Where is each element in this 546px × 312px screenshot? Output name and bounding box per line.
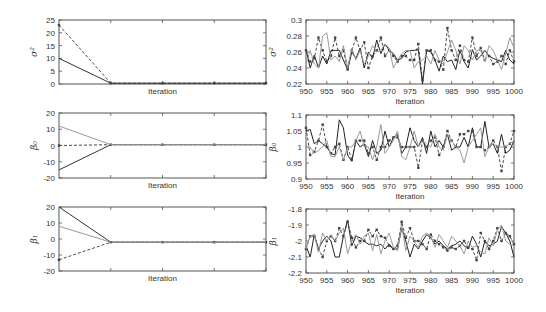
y-tick-label: 0 bbox=[51, 80, 56, 89]
y-tick-label: -2 bbox=[295, 237, 303, 246]
y-tick-label: -10 bbox=[43, 158, 55, 167]
series-chain-gray bbox=[59, 126, 266, 145]
y-axis-label: β₁ bbox=[268, 237, 278, 247]
x-tick-label: 1000 bbox=[505, 276, 523, 285]
x-tick-label: 970 bbox=[383, 182, 397, 191]
point-marker bbox=[309, 60, 311, 62]
x-tick-label: 995 bbox=[487, 276, 501, 285]
point-marker bbox=[317, 139, 319, 141]
y-tick-label: 1.1 bbox=[291, 111, 303, 120]
x-tick-label: 985 bbox=[445, 87, 459, 96]
point-marker bbox=[371, 146, 373, 148]
point-marker bbox=[355, 36, 357, 38]
point-marker bbox=[359, 139, 361, 141]
x-tick-label: 980 bbox=[424, 87, 438, 96]
panel-beta0-burnin: -20-1001020Iterationβ₀ bbox=[29, 109, 267, 190]
x-tick-label: 990 bbox=[466, 182, 480, 191]
x-axis-label: Iteration bbox=[148, 274, 177, 283]
point-marker bbox=[367, 67, 369, 69]
point-marker bbox=[400, 146, 402, 148]
point-marker bbox=[475, 55, 477, 57]
series-chain-gray bbox=[306, 33, 514, 70]
x-tick-label: 975 bbox=[403, 276, 417, 285]
point-marker bbox=[334, 146, 336, 148]
point-marker bbox=[417, 167, 419, 169]
point-marker bbox=[334, 36, 336, 38]
y-tick-label: 15 bbox=[46, 42, 55, 51]
point-marker bbox=[442, 68, 444, 70]
point-marker bbox=[430, 139, 432, 141]
y-tick-label: 10 bbox=[46, 219, 55, 228]
x-tick-label: 985 bbox=[445, 182, 459, 191]
point-marker bbox=[355, 246, 357, 248]
series-chain-solid bbox=[306, 220, 514, 257]
x-tick-label: 995 bbox=[487, 182, 501, 191]
plot-frame bbox=[59, 207, 266, 271]
y-tick-label: 10 bbox=[46, 125, 55, 134]
point-marker bbox=[388, 139, 390, 141]
point-marker bbox=[417, 240, 419, 242]
point-marker bbox=[463, 59, 465, 61]
point-marker bbox=[467, 60, 469, 62]
y-tick-label: 0.95 bbox=[286, 159, 302, 168]
y-tick-label: 1 bbox=[298, 143, 303, 152]
x-tick-label: 995 bbox=[487, 87, 501, 96]
y-axis-label: σ² bbox=[268, 47, 278, 57]
y-tick-label: -1.9 bbox=[288, 221, 302, 230]
point-marker bbox=[392, 55, 394, 57]
point-marker bbox=[500, 170, 502, 172]
point-marker bbox=[463, 240, 465, 242]
point-marker bbox=[346, 68, 348, 70]
point-marker bbox=[413, 146, 415, 148]
x-tick-label: 965 bbox=[362, 182, 376, 191]
point-marker bbox=[488, 248, 490, 250]
x-tick-label: 970 bbox=[383, 276, 397, 285]
point-marker bbox=[450, 49, 452, 51]
x-tick-label: 960 bbox=[341, 182, 355, 191]
panel-sigma2-trace: 0.220.240.260.280.3950955960965970975980… bbox=[268, 16, 523, 106]
series-chain-solid bbox=[306, 40, 514, 84]
y-tick-label: 0.26 bbox=[286, 48, 302, 57]
point-marker bbox=[492, 63, 494, 65]
x-axis-label: Iteration bbox=[148, 181, 177, 190]
y-tick-label: 0 bbox=[51, 142, 56, 151]
point-marker bbox=[425, 248, 427, 250]
y-tick-label: -10 bbox=[43, 251, 55, 260]
x-axis-label: Iteration bbox=[396, 97, 425, 106]
x-tick-label: 950 bbox=[299, 276, 313, 285]
y-tick-label: 0.28 bbox=[286, 32, 302, 41]
point-marker bbox=[434, 59, 436, 61]
point-marker bbox=[110, 82, 112, 84]
x-axis-label: Iteration bbox=[396, 192, 425, 201]
point-marker bbox=[513, 130, 515, 132]
point-marker bbox=[58, 259, 60, 261]
point-marker bbox=[446, 27, 448, 29]
point-marker bbox=[58, 144, 60, 146]
panel-sigma2-burnin: 0510152025Iterationσ² bbox=[29, 16, 267, 96]
point-marker bbox=[363, 41, 365, 43]
y-axis-label: β₁ bbox=[29, 235, 39, 245]
point-marker bbox=[346, 221, 348, 223]
x-tick-label: 950 bbox=[299, 87, 313, 96]
x-tick-label: 970 bbox=[383, 87, 397, 96]
point-marker bbox=[58, 24, 60, 26]
point-marker bbox=[484, 240, 486, 242]
plot-frame bbox=[59, 20, 266, 84]
point-marker bbox=[384, 55, 386, 57]
point-marker bbox=[455, 59, 457, 61]
x-tick-label: 965 bbox=[362, 276, 376, 285]
point-marker bbox=[425, 146, 427, 148]
point-marker bbox=[405, 146, 407, 148]
x-tick-label: 1000 bbox=[505, 182, 523, 191]
point-marker bbox=[380, 146, 382, 148]
y-tick-label: 10 bbox=[46, 54, 55, 63]
panel-beta1-burnin: -20-1001020Iterationβ₁ bbox=[29, 203, 267, 283]
y-axis-label: β₀ bbox=[29, 141, 39, 151]
point-marker bbox=[480, 232, 482, 234]
point-marker bbox=[376, 229, 378, 231]
y-axis-label: σ² bbox=[29, 47, 39, 57]
point-marker bbox=[413, 59, 415, 61]
x-tick-label: 990 bbox=[466, 276, 480, 285]
point-marker bbox=[467, 246, 469, 248]
point-marker bbox=[446, 249, 448, 251]
